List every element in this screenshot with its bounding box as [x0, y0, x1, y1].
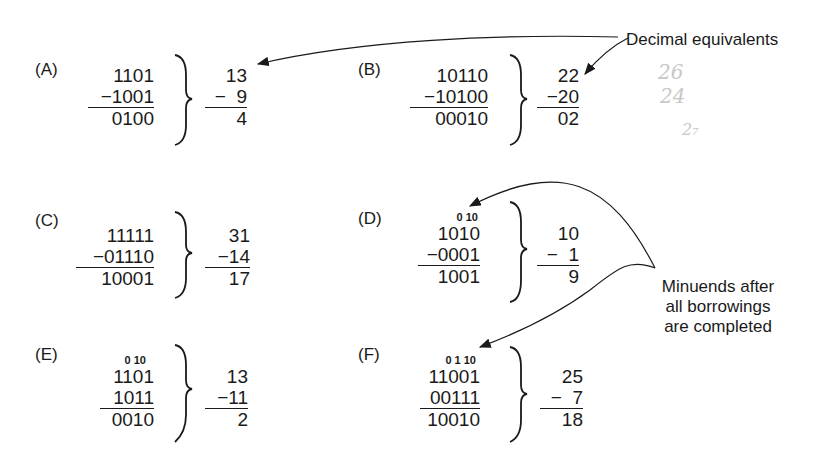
example-E-borrow: 0 10	[110, 354, 146, 366]
example-A-label: (A)	[35, 60, 58, 80]
example-E-label: (E)	[35, 345, 58, 365]
decimal-equivalents-label: Decimal equivalents	[626, 30, 778, 50]
example-E-decimal: 13 −11 2	[205, 366, 248, 430]
example-C-label: (C)	[35, 211, 59, 231]
example-A-binary: 1101 −1001 0100	[88, 65, 154, 129]
example-F-binary: 11001 00111 10010	[420, 366, 480, 430]
handwriting-24: 24	[660, 84, 685, 108]
example-D-borrow: 0 10	[420, 211, 478, 223]
arrow-to-B	[585, 38, 628, 74]
example-F-borrow: 0 1 10	[428, 354, 476, 366]
example-A-decimal: 13 − 9 4	[205, 65, 247, 129]
example-B-binary: 10110 −10100 00010	[410, 65, 488, 129]
example-F-decimal: 25 − 7 18	[540, 366, 583, 430]
minuends-note: Minuends after all borrowings are comple…	[638, 277, 798, 337]
handwriting-26: 26	[658, 60, 683, 84]
example-C-decimal: 31 −14 17	[205, 225, 250, 289]
example-C-binary: 11111 −01110 10001	[76, 225, 154, 289]
example-D-decimal: 10 − 1 9	[537, 223, 579, 287]
example-E-binary: 1101 1011 0010	[100, 366, 154, 430]
arrow-to-A	[258, 36, 618, 64]
example-B-decimal: 22 −20 02	[537, 65, 579, 129]
handwriting-2: 2₇	[682, 120, 699, 139]
example-B-label: (B)	[358, 60, 381, 80]
example-D-label: (D)	[358, 209, 382, 229]
example-F-label: (F)	[358, 345, 380, 365]
example-D-binary: 1010 −0001 1001	[418, 223, 480, 287]
